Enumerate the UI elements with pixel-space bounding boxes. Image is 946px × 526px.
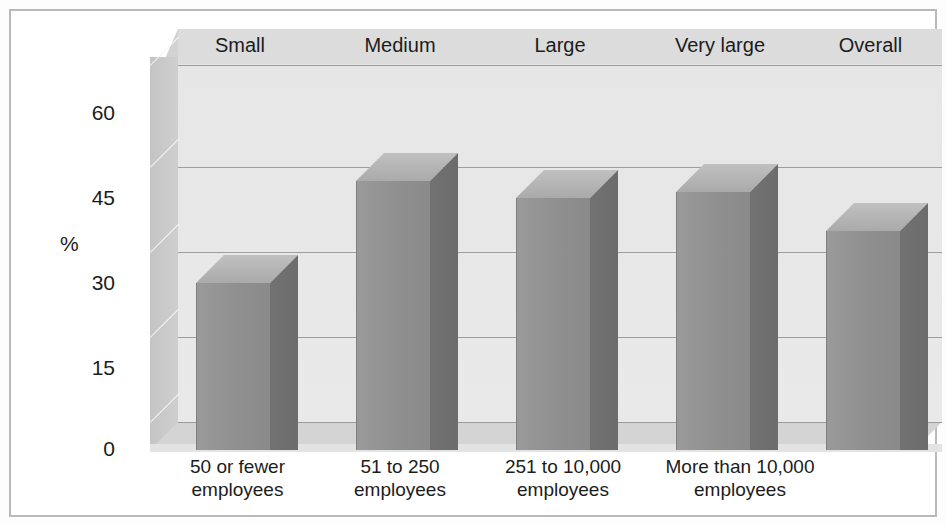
y-tick-0: 0 <box>55 438 115 459</box>
bar-large <box>516 170 590 450</box>
bar-overall-front <box>826 231 901 450</box>
x-label-medium-line1: 51 to 250 <box>325 455 475 478</box>
category-label-large: Large <box>485 34 635 56</box>
x-label-very-large-line2: employees <box>640 478 840 501</box>
x-label-small-line2: employees <box>155 478 320 501</box>
bar-overall-side <box>900 203 928 450</box>
axis-cap-0 <box>150 422 179 451</box>
x-label-large-line2: employees <box>478 478 648 501</box>
y-axis-label: % <box>60 232 79 256</box>
x-label-large-line1: 251 to 10,000 <box>478 455 648 478</box>
bar-medium-side <box>430 153 458 450</box>
bar-very-large <box>676 164 750 450</box>
y-tick-15: 15 <box>55 357 115 378</box>
category-label-small: Small <box>165 34 315 56</box>
x-label-small: 50 or fewer employees <box>155 455 320 501</box>
bar-very-large-side <box>750 164 778 450</box>
category-label-overall: Overall <box>798 34 943 56</box>
x-label-small-line1: 50 or fewer <box>155 455 320 478</box>
bar-medium-front <box>356 181 431 450</box>
axis-cap-15 <box>150 337 179 366</box>
bar-medium <box>356 153 430 450</box>
bar-large-front <box>516 198 591 450</box>
category-label-very-large: Very large <box>635 34 805 56</box>
gridline-60 <box>178 65 942 66</box>
x-label-large: 251 to 10,000 employees <box>478 455 648 501</box>
axis-cap-30 <box>150 252 179 281</box>
chart-page: 60 45 30 15 0 % Small Medium Large Very … <box>0 0 946 526</box>
bar-chart: 60 45 30 15 0 % Small Medium Large Very … <box>0 0 946 526</box>
x-label-very-large-line1: More than 10,000 <box>640 455 840 478</box>
x-label-medium-line2: employees <box>325 478 475 501</box>
bar-small-side <box>270 255 298 450</box>
bar-large-side <box>590 170 618 450</box>
axis-cap-60 <box>150 65 179 94</box>
gridline-45 <box>178 167 942 168</box>
y-tick-30: 30 <box>55 272 115 293</box>
bar-small-front <box>196 283 271 450</box>
y-tick-60: 60 <box>55 102 115 123</box>
bar-overall <box>826 203 900 450</box>
y-tick-45: 45 <box>55 187 115 208</box>
x-label-medium: 51 to 250 employees <box>325 455 475 501</box>
x-label-very-large: More than 10,000 employees <box>640 455 840 501</box>
category-label-medium: Medium <box>320 34 480 56</box>
bar-very-large-front <box>676 192 751 450</box>
bar-small <box>196 255 270 450</box>
axis-cap-45 <box>150 167 179 196</box>
